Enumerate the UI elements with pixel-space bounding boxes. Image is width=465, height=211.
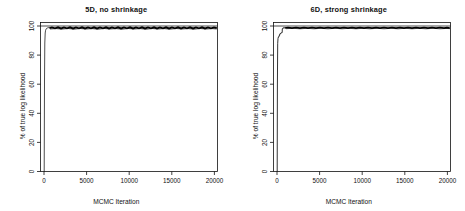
- panel-right-ylabel: % of true log likelihood: [251, 51, 258, 161]
- svg-text:20000: 20000: [438, 177, 456, 184]
- svg-text:15000: 15000: [163, 177, 181, 184]
- svg-text:15000: 15000: [396, 177, 414, 184]
- panel-right-xlabel: MCMC Iteration: [233, 198, 465, 205]
- panel-right-plot: 0 20 40 60 80 100 0 5000 10000 15000 200…: [233, 0, 465, 211]
- x-axis-ticks: [44, 172, 214, 176]
- svg-text:80: 80: [28, 51, 35, 59]
- x-tick-labels: 0 5000 10000 15000 20000: [42, 177, 223, 184]
- svg-text:5000: 5000: [312, 177, 327, 184]
- trace-line: [277, 28, 450, 172]
- y-tick-labels: 0 20 40 60 80 100: [261, 20, 268, 173]
- svg-text:0: 0: [42, 177, 46, 184]
- panel-left-xlabel: MCMC Iteration: [0, 198, 233, 205]
- svg-text:5000: 5000: [80, 177, 95, 184]
- panel-right: 6D, strong shrinkage 0 20: [233, 0, 465, 211]
- svg-text:80: 80: [261, 51, 268, 59]
- svg-text:10000: 10000: [120, 177, 138, 184]
- panel-right-ylabel-wrap: % of true log likelihood: [241, 0, 253, 211]
- panel-left-ylabel: % of true log likelihood: [19, 51, 26, 161]
- panel-left-plot: 0 20 40 60 80 100 0 5000 10000 15000 200…: [0, 0, 233, 211]
- svg-text:60: 60: [261, 80, 268, 88]
- svg-text:20: 20: [261, 138, 268, 146]
- x-axis-ticks: [277, 172, 447, 176]
- svg-text:40: 40: [28, 109, 35, 117]
- svg-text:100: 100: [28, 20, 35, 31]
- x-tick-labels: 0 5000 10000 15000 20000: [275, 177, 456, 184]
- y-axis-ticks: [37, 26, 41, 172]
- figure-container: 5D, no shrinkage: [0, 0, 465, 211]
- plot-frame: [273, 23, 450, 172]
- svg-text:10000: 10000: [353, 177, 371, 184]
- svg-text:60: 60: [28, 80, 35, 88]
- svg-text:40: 40: [261, 109, 268, 117]
- y-tick-labels: 0 20 40 60 80 100: [28, 20, 35, 173]
- svg-text:0: 0: [261, 169, 268, 173]
- trace-line: [44, 27, 217, 171]
- svg-text:0: 0: [28, 169, 35, 173]
- y-axis-ticks: [270, 26, 274, 172]
- svg-text:0: 0: [275, 177, 279, 184]
- svg-text:20: 20: [28, 138, 35, 146]
- plot-frame: [41, 23, 218, 172]
- panel-left: 5D, no shrinkage: [0, 0, 233, 211]
- svg-text:20000: 20000: [206, 177, 224, 184]
- svg-text:100: 100: [261, 20, 268, 31]
- panel-left-ylabel-wrap: % of true log likelihood: [8, 0, 20, 211]
